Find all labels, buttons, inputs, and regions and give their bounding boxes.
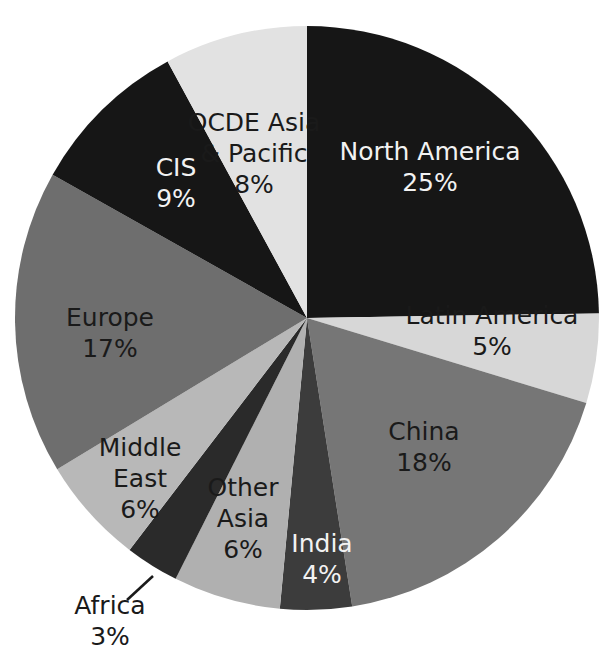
label-line: Africa <box>74 591 145 620</box>
label-line: India <box>291 529 352 558</box>
label-line: 6% <box>120 495 160 524</box>
label-line: 8% <box>234 170 274 199</box>
label-line: OCDE Asia <box>188 108 321 137</box>
pie-chart-svg: North America25%Latin America5%China18%I… <box>0 0 606 670</box>
label-line: 9% <box>156 184 196 213</box>
label-line: Europe <box>66 303 154 332</box>
label-line: North America <box>340 137 521 166</box>
label-line: 25% <box>402 168 458 197</box>
label-line: 5% <box>472 332 512 361</box>
label-line: CIS <box>156 153 197 182</box>
label-line: Latin America <box>406 301 579 330</box>
label-line: China <box>388 417 459 446</box>
label-line: Middle <box>99 433 182 462</box>
label-line: 18% <box>396 448 452 477</box>
label-line: East <box>113 464 167 493</box>
label-line: 17% <box>82 334 138 363</box>
label-line: 6% <box>223 535 263 564</box>
label-line: Asia <box>217 504 269 533</box>
pie-chart-figure: North America25%Latin America5%China18%I… <box>0 0 606 670</box>
label-line: 3% <box>90 622 130 651</box>
label-line: & Pacific <box>201 139 308 168</box>
label-line: Other <box>208 473 280 502</box>
label-line: 4% <box>302 560 342 589</box>
